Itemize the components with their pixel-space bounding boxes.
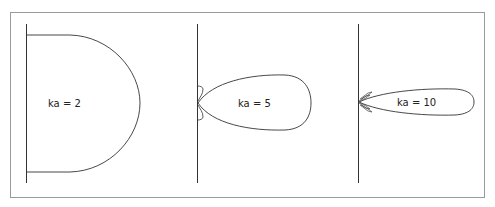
panel-ka10: ka = 10	[359, 24, 475, 183]
side-lobe-lower	[198, 105, 203, 120]
panel-ka5: ka = 5	[198, 24, 312, 183]
ka-label: ka = 2	[48, 98, 81, 109]
directivity-diagram: ka = 2 ka = 5 ka = 10	[0, 0, 495, 207]
side-lobe-upper	[198, 86, 203, 101]
directivity-lobe	[27, 35, 141, 172]
panel-ka2: ka = 2	[27, 24, 141, 183]
ka-label: ka = 10	[397, 97, 436, 108]
ka-label: ka = 5	[238, 98, 271, 109]
